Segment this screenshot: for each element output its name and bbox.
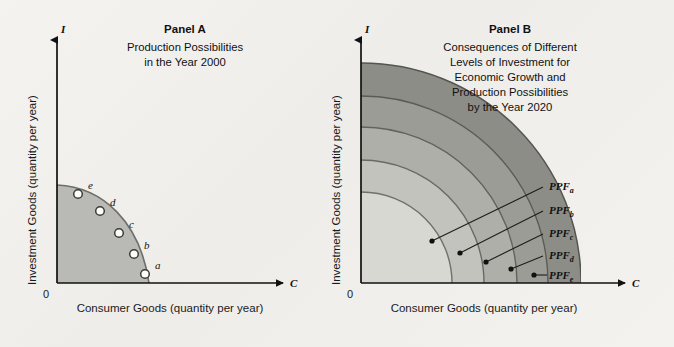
panel-b-subtitle-line-3: Economic Growth and: [454, 71, 565, 83]
panel-b-y-axis-label: Investment Goods (quantity per year): [330, 95, 342, 285]
panel-a-origin-label: 0: [43, 288, 49, 300]
point-marker-c: [115, 229, 124, 238]
panel-b-subtitle-line-5: by the Year 2020: [468, 101, 553, 113]
point-label-a: a: [155, 259, 161, 271]
point-label-e: e: [88, 179, 93, 191]
arc-dot-ppf-b: [457, 250, 462, 255]
point-marker-b: [130, 250, 139, 259]
panel-b-subtitle-line-2: Levels of Investment for: [450, 56, 570, 68]
point-marker-d: [96, 207, 105, 216]
arc-dot-ppf-e: [531, 272, 536, 277]
point-marker-e: [74, 190, 83, 199]
point-label-b: b: [144, 239, 150, 251]
arc-dot-ppf-c: [483, 259, 488, 264]
panel-b-y-axis-symbol: I: [364, 23, 370, 35]
panel-b-origin-label: 0: [347, 288, 353, 300]
point-label-d: d: [110, 196, 116, 208]
panel-a-x-axis-symbol: C: [290, 277, 298, 289]
panel-a: I C 0 Investment Goods (quantity per yea…: [26, 23, 298, 314]
panel-a-y-axis-symbol: I: [60, 23, 66, 35]
panel-a-title: Panel A: [164, 23, 206, 35]
panel-b-title: Panel B: [489, 23, 531, 35]
point-label-c: c: [129, 218, 134, 230]
arc-dot-ppf-d: [508, 266, 513, 271]
panel-a-y-axis-label: Investment Goods (quantity per year): [26, 95, 38, 285]
panel-a-subtitle-line-2: in the Year 2000: [144, 56, 226, 68]
economics-diagram: I C 0 Investment Goods (quantity per yea…: [0, 0, 674, 347]
panel-b-subtitle-line-1: Consequences of Different: [443, 41, 577, 53]
panel-b: I C 0 Investment Goods (quantity per yea…: [330, 23, 640, 314]
panel-a-subtitle-line-1: Production Possibilities: [127, 41, 244, 53]
panel-b-x-axis-symbol: C: [632, 277, 640, 289]
panel-a-x-axis-label: Consumer Goods (quantity per year): [77, 302, 264, 314]
panel-b-subtitle-line-4: Production Possibilities: [452, 86, 569, 98]
panel-a-feasible-region: [57, 185, 149, 283]
panel-b-x-axis-label: Consumer Goods (quantity per year): [391, 302, 578, 314]
point-marker-a: [141, 270, 150, 279]
arc-dot-ppf-a: [429, 238, 434, 243]
figure-container: I C 0 Investment Goods (quantity per yea…: [0, 0, 674, 347]
